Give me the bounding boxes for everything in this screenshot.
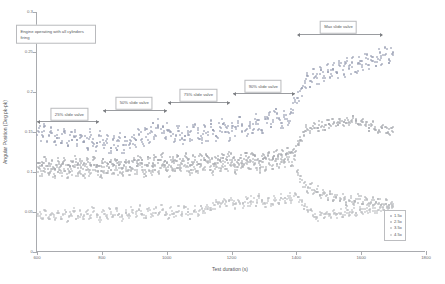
data-point <box>150 130 152 132</box>
data-point <box>342 193 344 195</box>
data-point <box>292 109 294 111</box>
data-point <box>305 124 307 126</box>
data-point <box>169 175 171 177</box>
data-point <box>297 144 299 146</box>
data-point <box>37 213 39 215</box>
data-point <box>121 216 123 218</box>
data-point <box>196 161 198 163</box>
data-point <box>323 80 325 82</box>
data-point <box>125 209 127 211</box>
data-point <box>63 160 65 162</box>
data-point <box>265 168 267 170</box>
data-point <box>132 209 134 211</box>
data-point <box>268 162 270 164</box>
legend[interactable]: 1.5x2.5x3.5x4.5x <box>384 210 406 241</box>
data-point <box>388 207 390 209</box>
data-point <box>288 122 290 124</box>
data-point <box>83 175 85 177</box>
data-point <box>298 100 300 102</box>
data-point <box>184 139 186 141</box>
y-tick-label: 0.05 <box>25 210 33 214</box>
data-point <box>299 181 301 183</box>
data-point <box>384 54 386 56</box>
data-point <box>236 169 238 171</box>
data-point <box>157 118 159 120</box>
data-point <box>287 147 289 149</box>
data-point <box>294 159 296 161</box>
data-point <box>316 188 318 190</box>
data-point <box>313 127 315 129</box>
data-point <box>183 160 185 162</box>
data-point <box>263 157 265 159</box>
data-point <box>217 155 219 157</box>
data-point <box>316 191 318 193</box>
data-point <box>110 169 112 171</box>
data-point <box>313 122 315 124</box>
data-point <box>316 127 318 129</box>
data-point <box>93 164 95 166</box>
data-point <box>169 207 171 209</box>
data-point <box>86 157 88 159</box>
data-point <box>301 87 303 89</box>
data-point <box>58 212 60 214</box>
data-point <box>209 159 211 161</box>
data-point <box>275 160 277 162</box>
data-point <box>54 175 56 177</box>
data-point <box>79 134 81 136</box>
y-tick <box>33 132 37 133</box>
data-point <box>277 158 279 160</box>
data-point <box>149 209 151 211</box>
legend-item-4-5x[interactable]: 4.5x <box>387 232 402 238</box>
data-point <box>309 132 311 134</box>
data-point <box>41 218 43 220</box>
data-point <box>129 174 131 176</box>
data-point <box>353 204 355 206</box>
data-point <box>164 137 166 139</box>
data-point <box>87 149 89 151</box>
data-point <box>309 209 311 211</box>
data-point <box>141 213 143 215</box>
data-point <box>285 114 287 116</box>
data-point <box>293 158 295 160</box>
data-point <box>310 80 312 82</box>
data-point <box>286 118 288 120</box>
data-point <box>322 129 324 131</box>
data-point <box>143 145 145 147</box>
legend-marker-icon <box>387 227 394 229</box>
data-point <box>384 46 386 48</box>
data-point <box>206 155 208 157</box>
data-point <box>250 200 252 202</box>
data-point <box>219 159 221 161</box>
data-point <box>67 177 69 179</box>
data-point <box>158 213 160 215</box>
data-point <box>98 165 100 167</box>
data-point <box>48 218 50 220</box>
data-point <box>111 173 113 175</box>
data-point <box>336 217 338 219</box>
data-point <box>330 125 332 127</box>
y-tick <box>33 12 37 13</box>
data-point <box>130 169 132 171</box>
data-point <box>372 56 374 58</box>
data-point <box>304 181 306 183</box>
data-point <box>290 202 292 204</box>
data-point <box>284 166 286 168</box>
data-point <box>321 121 323 123</box>
data-point <box>276 113 278 115</box>
data-point <box>367 58 369 60</box>
data-point <box>214 208 216 210</box>
data-point <box>175 134 177 136</box>
data-point <box>227 170 229 172</box>
data-point <box>74 155 76 157</box>
data-point <box>116 210 118 212</box>
data-point <box>176 211 178 213</box>
data-point <box>99 130 101 132</box>
data-point <box>317 130 319 132</box>
data-point <box>131 167 133 169</box>
data-point <box>135 146 137 148</box>
data-point <box>200 164 202 166</box>
y-tick <box>33 52 37 53</box>
data-point <box>228 132 230 134</box>
data-point <box>282 127 284 129</box>
data-point <box>189 174 191 176</box>
